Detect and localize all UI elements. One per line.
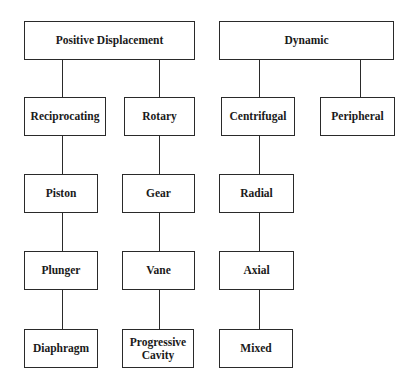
node-label: Mixed: [240, 342, 271, 355]
node-positive-displacement: Positive Displacement: [24, 21, 195, 60]
connector-dynamic-to-peripheral: [360, 60, 361, 97]
node-centrifugal: Centrifugal: [221, 97, 295, 136]
node-label: Positive Displacement: [56, 34, 164, 47]
node-plunger: Plunger: [24, 251, 98, 290]
connector-gear-to-vane: [159, 213, 160, 251]
connector-axial-to-mixed: [259, 290, 260, 329]
node-mixed: Mixed: [219, 329, 293, 368]
connector-reciprocating-to-piston: [62, 136, 63, 174]
node-dynamic: Dynamic: [219, 21, 394, 60]
node-diaphragm: Diaphragm: [24, 329, 98, 368]
node-label: Rotary: [142, 110, 177, 123]
connector-radial-to-axial: [259, 213, 260, 251]
node-axial: Axial: [219, 251, 294, 290]
node-label: Dynamic: [284, 34, 328, 47]
node-piston: Piston: [24, 174, 98, 213]
node-label: Diaphragm: [33, 342, 89, 355]
node-label: Peripheral: [331, 110, 383, 123]
node-label: Centrifugal: [230, 110, 287, 123]
node-radial: Radial: [219, 174, 294, 213]
node-label: Progressive Cavity: [125, 336, 191, 362]
node-gear: Gear: [122, 174, 195, 213]
node-peripheral: Peripheral: [320, 97, 395, 136]
node-rotary: Rotary: [124, 97, 195, 136]
node-label: Reciprocating: [31, 110, 100, 123]
connector-dynamic-to-centrifugal: [259, 60, 260, 97]
connector-piston-to-plunger: [62, 213, 63, 251]
node-label: Axial: [243, 264, 269, 277]
connector-vane-to-progressive-cavity: [159, 290, 160, 329]
node-reciprocating: Reciprocating: [24, 97, 106, 136]
node-progressive-cavity: Progressive Cavity: [122, 329, 194, 368]
connector-plunger-to-diaphragm: [62, 290, 63, 329]
connector-centrifugal-to-radial: [259, 136, 260, 174]
connector-rotary-to-gear: [159, 136, 160, 174]
connector-positive-displacement-to-rotary: [159, 60, 160, 97]
node-label: Piston: [46, 187, 77, 200]
node-label: Plunger: [42, 264, 81, 277]
connector-positive-displacement-to-reciprocating: [62, 60, 63, 97]
node-label: Radial: [240, 187, 273, 200]
node-label: Vane: [146, 264, 171, 277]
pump-classification-diagram: Positive DisplacementDynamicReciprocatin…: [0, 0, 414, 390]
node-label: Gear: [146, 187, 171, 200]
node-vane: Vane: [122, 251, 195, 290]
